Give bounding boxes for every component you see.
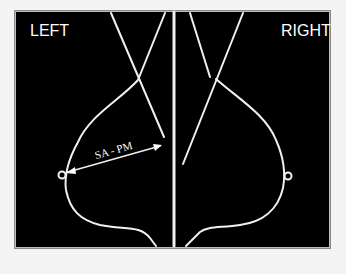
left-nipple [59,172,66,179]
left-chest-line [111,13,164,137]
right-chest-line-upper [190,13,210,77]
right-label: RIGHT [281,22,331,40]
right-breast-contour [186,79,284,246]
right-nipple [285,173,292,180]
measurement-label: SA - PM [93,139,134,161]
left-label: LEFT [30,22,69,40]
left-breast-contour [66,13,166,246]
breast-profile-diagram: SA - PM [0,0,346,274]
right-chest-line [183,13,243,164]
